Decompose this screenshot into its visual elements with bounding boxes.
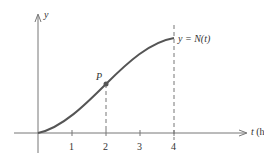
x-axis-unit: (hrs) bbox=[256, 126, 264, 137]
tick-label-1: 1 bbox=[69, 142, 74, 152]
tick-label-3: 3 bbox=[137, 142, 142, 152]
point-P bbox=[104, 82, 109, 87]
tick-label-2: 2 bbox=[103, 142, 108, 152]
graph-canvas bbox=[0, 0, 264, 161]
tick-label-4: 4 bbox=[171, 142, 176, 152]
point-label: P bbox=[96, 72, 102, 82]
curve-label: y = N(t) bbox=[178, 34, 210, 44]
y-axis-label: y bbox=[44, 10, 48, 20]
x-axis-label: t (hrs) bbox=[251, 127, 264, 137]
x-axis-var: t bbox=[251, 126, 254, 137]
